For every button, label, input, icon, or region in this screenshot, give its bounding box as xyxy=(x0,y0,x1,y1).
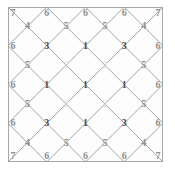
vertex-value-r2-c2: 1 xyxy=(78,78,94,92)
vertex-value-r4-c3: 6 xyxy=(116,149,132,163)
vertex-value-r2-c3: 1 xyxy=(116,78,132,92)
vertex-value-r2-c0: 6 xyxy=(5,78,21,92)
vertex-value-r3-c4: 6 xyxy=(150,116,166,130)
center-value-r2-c3: 5 xyxy=(136,97,152,111)
vertex-value-r0-c4: 7 xyxy=(150,6,166,20)
center-value-r3-c2: 5 xyxy=(97,136,113,150)
vertex-value-r0-c0: 7 xyxy=(5,6,21,20)
vertex-value-r4-c0: 7 xyxy=(5,149,21,163)
center-value-r2-c0: 5 xyxy=(19,97,35,111)
center-value-r2-c1: 2 xyxy=(58,97,74,111)
center-value-r0-c2: 5 xyxy=(97,19,113,33)
center-value-r0-c0: 4 xyxy=(19,19,35,33)
vertex-value-r2-c4: 6 xyxy=(150,78,166,92)
vertex-value-r4-c1: 6 xyxy=(39,149,55,163)
vertex-value-r1-c2: 1 xyxy=(78,39,94,53)
vertex-value-r1-c3: 3 xyxy=(116,39,132,53)
vertex-value-r0-c1: 6 xyxy=(39,6,55,20)
center-value-r3-c1: 5 xyxy=(58,136,74,150)
vertex-value-r3-c2: 1 xyxy=(78,116,94,130)
center-value-r3-c3: 4 xyxy=(136,136,152,150)
vertex-value-r0-c2: 6 xyxy=(78,6,94,20)
center-value-r3-c0: 4 xyxy=(19,136,35,150)
center-value-r1-c0: 5 xyxy=(19,58,35,72)
vertex-value-r0-c3: 6 xyxy=(116,6,132,20)
center-value-r1-c2: 2 xyxy=(97,58,113,72)
center-value-r0-c1: 5 xyxy=(58,19,74,33)
vertex-value-r4-c4: 7 xyxy=(150,149,166,163)
vertex-value-r3-c1: 3 xyxy=(39,116,55,130)
vertex-value-r3-c3: 3 xyxy=(116,116,132,130)
vertex-value-r1-c1: 3 xyxy=(39,39,55,53)
vertex-value-r2-c1: 1 xyxy=(39,78,55,92)
center-value-r1-c3: 5 xyxy=(136,58,152,72)
center-value-r0-c3: 4 xyxy=(136,19,152,33)
lattice-figure: 7666763136611166313676667455452255225455… xyxy=(0,0,175,173)
center-value-r1-c1: 2 xyxy=(58,58,74,72)
vertex-value-r1-c0: 6 xyxy=(5,39,21,53)
vertex-value-r1-c4: 6 xyxy=(150,39,166,53)
vertex-value-r4-c2: 6 xyxy=(78,149,94,163)
center-value-r2-c2: 2 xyxy=(97,97,113,111)
vertex-value-r3-c0: 6 xyxy=(5,116,21,130)
